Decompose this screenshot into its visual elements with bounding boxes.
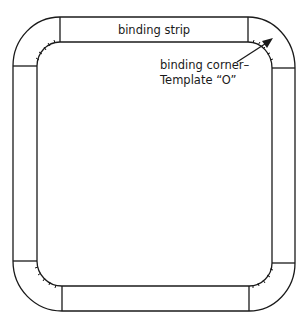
- binding-strip-label: binding strip: [118, 23, 190, 37]
- corner-label-line1: binding corner–: [160, 58, 249, 72]
- binding-diagram: binding strip: [0, 0, 306, 323]
- left-binding-strip: [13, 66, 37, 261]
- corner-top-left: [13, 17, 60, 66]
- bottom-binding-strip: [62, 286, 249, 311]
- arrowhead-icon: [262, 38, 273, 48]
- corner-top-right: [248, 17, 295, 68]
- corner-bottom-right: [249, 263, 295, 311]
- corner-bottom-left: [13, 261, 62, 311]
- corner-label-line2: Template “O”: [159, 73, 237, 87]
- right-binding-strip: [272, 68, 295, 263]
